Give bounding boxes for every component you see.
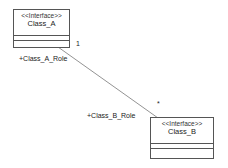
- class-b-header: <<Interface>> Class_B: [151, 118, 213, 144]
- class-b-name: Class_B: [151, 128, 213, 136]
- class-a-box[interactable]: <<Interface>> Class_A: [13, 9, 70, 48]
- target-role-label: +Class_B_Role: [87, 112, 135, 119]
- class-b-operations: [151, 149, 213, 159]
- class-a-name: Class_A: [14, 20, 69, 28]
- target-multiplicity: *: [157, 100, 160, 107]
- source-role-label: +Class_A_Role: [19, 55, 67, 62]
- class-b-box[interactable]: <<Interface>> Class_B: [150, 117, 214, 159]
- source-multiplicity: 1: [76, 40, 80, 47]
- class-a-operations: [14, 41, 69, 48]
- class-a-header: <<Interface>> Class_A: [14, 10, 69, 36]
